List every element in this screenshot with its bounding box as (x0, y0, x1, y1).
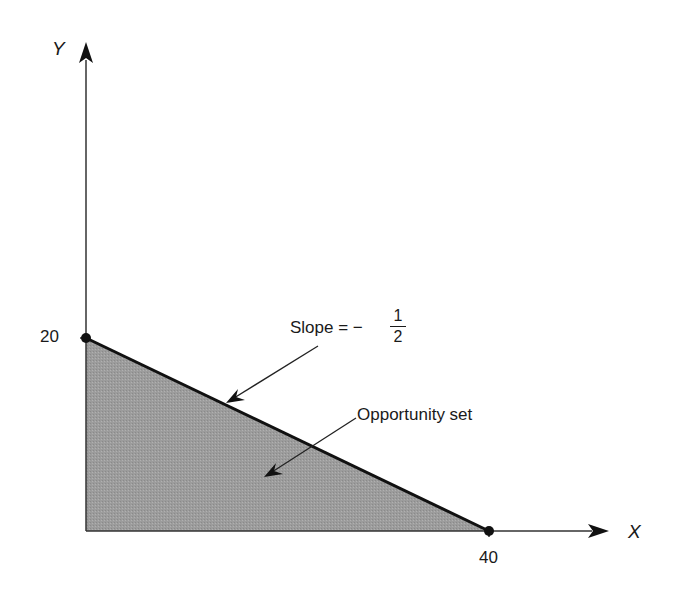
slope-fraction: 1 2 (390, 307, 406, 346)
x-axis-label: X (628, 521, 641, 543)
opportunity-set-annotation: Opportunity set (357, 405, 472, 425)
slope-denominator: 2 (394, 328, 403, 346)
x-intercept-point (484, 526, 494, 536)
chart-canvas (0, 0, 677, 605)
fraction-bar (390, 326, 406, 327)
x-tick-label: 40 (479, 548, 498, 568)
y-tick-label: 20 (40, 327, 59, 347)
y-intercept-point (81, 333, 91, 343)
y-axis-label: Y (52, 38, 65, 60)
slope-pointer-arrow-icon (226, 389, 245, 403)
slope-pointer (234, 346, 318, 398)
slope-numerator: 1 (394, 307, 403, 325)
y-axis-arrow-icon (79, 42, 93, 63)
slope-annotation: Slope = − (290, 318, 363, 338)
